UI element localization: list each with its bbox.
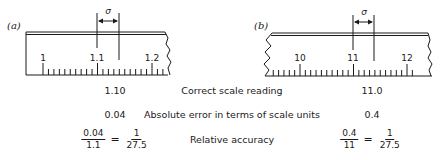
row1-description: Correct scale reading: [181, 85, 282, 96]
sigma-a-label: σ: [105, 6, 111, 16]
row1-left-value: 1.10: [104, 85, 125, 96]
panel-a-label: (a): [7, 20, 21, 31]
major-label-a-0: 1: [40, 53, 46, 63]
left-relative-accuracy: 0.041.1 = 127.5: [81, 128, 148, 151]
left-frac1-denominator: 1.1: [84, 140, 102, 151]
row3-description: Relative accuracy: [190, 134, 274, 145]
right-frac2-numerator: 1: [385, 128, 395, 140]
sigma-b-label: σ: [361, 7, 367, 17]
row2-left-value: 0.04: [104, 109, 125, 120]
major-label-b-2: 12: [401, 53, 412, 63]
right-frac2-denominator: 27.5: [378, 140, 402, 151]
left-equals-sign: =: [110, 133, 119, 146]
row1-right-value: 11.0: [361, 85, 382, 96]
left-frac1-numerator: 0.04: [81, 128, 105, 140]
major-label-a-1: 1.1: [90, 53, 104, 63]
major-label-b-1: 11: [347, 53, 358, 63]
left-frac2-numerator: 1: [132, 128, 142, 140]
right-frac1-denominator: 11: [342, 140, 357, 151]
panel-b-label: (b): [254, 20, 268, 31]
major-label-a-2: 1.2: [145, 53, 159, 63]
right-equals-sign: =: [364, 133, 373, 146]
major-label-b-0: 10: [294, 53, 306, 63]
ruler-b: (b) σ 10 11 12: [254, 7, 432, 76]
right-frac1-numerator: 0.4: [340, 128, 358, 140]
right-relative-accuracy: 0.411 = 127.5: [340, 128, 402, 151]
row2-description: Absolute error in terms of scale units: [144, 109, 320, 120]
ruler-a: (a) σ 1 1.1 1.2: [7, 6, 171, 75]
left-frac2-denominator: 27.5: [125, 140, 149, 151]
row2-right-value: 0.4: [364, 109, 379, 120]
